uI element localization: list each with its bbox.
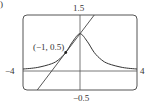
x-max-label: 4 [140,67,145,76]
tangent-point-marker [64,51,67,54]
x-min-label: −4 [5,67,15,76]
panel-label: ) [0,0,3,9]
y-max-label: 1.5 [73,4,84,13]
y-min-label: −0.5 [73,94,89,103]
graph-canvas [0,0,148,107]
tangent-point-label: (−1, 0.5) [33,43,64,52]
